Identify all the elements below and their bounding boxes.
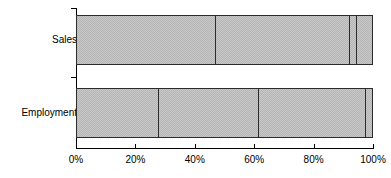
- x-axis-tick: [314, 144, 315, 149]
- x-axis-tick-label: 80%: [304, 154, 324, 165]
- x-axis-tick: [254, 144, 255, 149]
- x-axis-tick: [135, 144, 136, 149]
- bar-segment: [216, 16, 350, 64]
- bar-segment: [159, 89, 260, 137]
- bar-employment: [76, 88, 373, 138]
- y-axis-tick-middle: [71, 77, 77, 78]
- bar-segment: [357, 16, 372, 64]
- category-label-employment: Employment: [21, 107, 77, 118]
- bar-sales: [76, 15, 373, 65]
- bar-segment: [77, 16, 216, 64]
- category-label-sales: Sales: [52, 34, 77, 45]
- x-axis-tick-label: 0%: [69, 154, 83, 165]
- x-axis-line: [76, 148, 373, 149]
- bar-segment: [366, 89, 372, 137]
- x-axis-tick: [195, 144, 196, 149]
- x-axis-tick-label: 20%: [125, 154, 145, 165]
- x-axis-tick-label: 100%: [360, 154, 386, 165]
- stacked-bar-chart: Sales Employment 0%20%40%60%80%100%: [0, 0, 391, 178]
- x-axis-tick: [373, 144, 374, 149]
- bar-segment: [77, 89, 159, 137]
- y-axis-tick-top: [71, 8, 77, 9]
- x-axis-tick-label: 40%: [185, 154, 205, 165]
- bar-segment: [350, 16, 357, 64]
- bar-segment: [259, 89, 366, 137]
- x-axis-tick: [76, 144, 77, 149]
- x-axis-tick-label: 60%: [244, 154, 264, 165]
